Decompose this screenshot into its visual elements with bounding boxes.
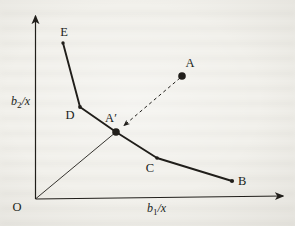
point-dot-E bbox=[61, 41, 64, 44]
label-origin: O bbox=[12, 200, 21, 214]
point-dot-B bbox=[230, 179, 234, 183]
point-dot-Aprime bbox=[112, 128, 120, 136]
y-axis-label: b2/x bbox=[11, 94, 31, 110]
point-dot-D bbox=[78, 105, 82, 109]
dashed-arrow-A-to-Aprime bbox=[124, 78, 180, 126]
label-E: E bbox=[60, 25, 68, 39]
label-B: B bbox=[238, 174, 246, 188]
diagram-svg: E D A′ A C B O b2/x b1/x bbox=[0, 0, 295, 226]
label-Aprime: A′ bbox=[105, 111, 117, 125]
ray-O-to-Aprime bbox=[36, 132, 116, 199]
x-axis-label: b1/x bbox=[147, 201, 167, 217]
x-axis bbox=[36, 196, 284, 199]
label-C: C bbox=[146, 161, 154, 175]
label-D: D bbox=[65, 108, 74, 122]
point-dot-C bbox=[155, 156, 159, 160]
point-dot-A bbox=[178, 72, 186, 80]
label-A: A bbox=[185, 56, 194, 70]
figure-canvas: E D A′ A C B O b2/x b1/x bbox=[0, 0, 295, 226]
